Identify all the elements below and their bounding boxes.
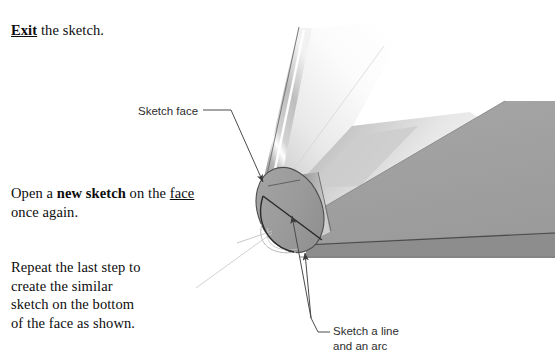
open-line2-suffix: once again. (11, 204, 78, 220)
instruction-open-new-sketch: Open a new sketch on the face once again… (11, 184, 211, 221)
sketch-chord-line (263, 196, 322, 240)
sketch-line-arc-leaders (292, 216, 330, 332)
callout-label-sketch-face: Sketch face (138, 104, 198, 119)
sketch-entities-on-face (261, 180, 322, 252)
exit-keyword: Exit (11, 22, 37, 38)
new-sketch-keyword: new sketch (57, 185, 126, 201)
cylinder-neck (292, 172, 331, 246)
tutorial-page: Exit the sketch. Open a new sketch on th… (0, 0, 555, 362)
inner-throat-surface (300, 112, 520, 214)
face-keyword: face (170, 185, 195, 201)
sketch-face-leader (203, 110, 263, 182)
open-suffix: on the (126, 185, 166, 201)
exit-rest: the sketch. (37, 22, 104, 38)
upper-swept-band (262, 18, 410, 206)
lower-wedge-face (300, 101, 555, 258)
open-prefix: Open a (11, 185, 57, 201)
instruction-repeat-step: Repeat the last step to create the simil… (11, 258, 221, 332)
sketch-arc (261, 196, 294, 252)
callout-label-sketch-line-and-arc: Sketch a line and an arc (333, 324, 399, 354)
end-face-ellipse (244, 157, 336, 263)
instruction-exit-sketch: Exit the sketch. (11, 21, 251, 40)
